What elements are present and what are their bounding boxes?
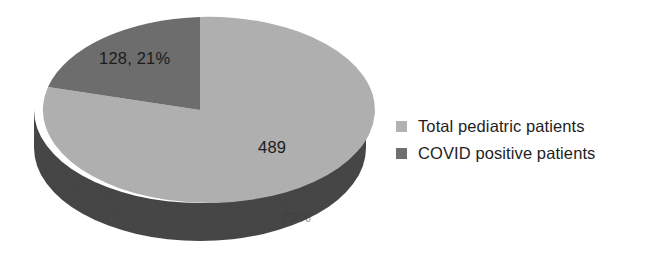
- legend-swatch-covid-positive-patients: [396, 148, 407, 159]
- pie-slice-hidden-percent-label: 79%: [281, 208, 311, 225]
- pie-chart-figure: 79% 128, 21% 489 Total pediatric patient…: [0, 0, 659, 258]
- pie-chart-plot-area: 79% 128, 21% 489: [0, 0, 400, 258]
- legend-swatch-total-pediatric-patients: [396, 121, 407, 132]
- pie-chart-svg: 79%: [0, 0, 400, 258]
- legend-label-covid-positive-patients: COVID positive patients: [418, 145, 595, 162]
- pie-data-label-total-pediatric-patients: 489: [258, 139, 286, 156]
- legend-item-total-pediatric-patients[interactable]: Total pediatric patients: [396, 113, 659, 140]
- pie-data-label-covid-positive-patients: 128, 21%: [99, 50, 170, 67]
- legend-label-total-pediatric-patients: Total pediatric patients: [418, 118, 585, 135]
- chart-legend: Total pediatric patients COVID positive …: [396, 113, 659, 167]
- legend-item-covid-positive-patients[interactable]: COVID positive patients: [396, 140, 659, 167]
